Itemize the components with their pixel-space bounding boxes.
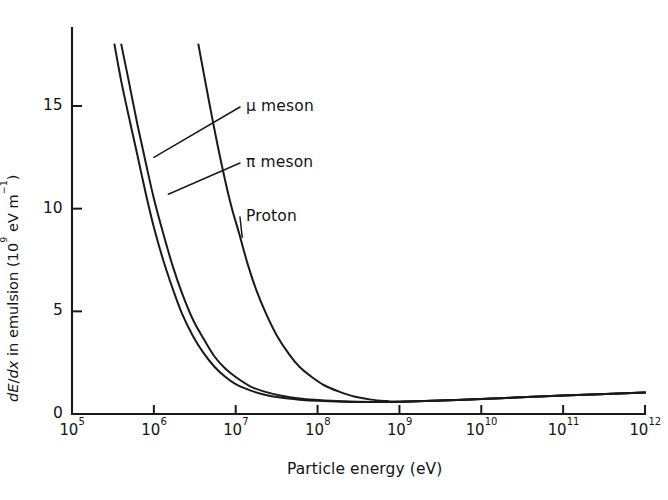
y-tick-label: 10 (43, 199, 63, 217)
y-tick-label: 15 (43, 96, 63, 114)
x-tick-label: 109 (387, 421, 412, 439)
x-tick-label: 1011 (548, 421, 579, 439)
series-label-proton: Proton (246, 207, 297, 225)
figure-canvas: dE/dx in emulsion (109 eV m−1) Particle … (0, 0, 668, 500)
x-tick-label: 108 (305, 421, 330, 439)
axes (72, 28, 645, 414)
y-axis-title: dE/dx in emulsion (109 eV m−1) (5, 174, 21, 402)
annotation-leader-lines (154, 107, 242, 237)
data-curves (114, 44, 645, 402)
y-tick-label: 5 (53, 301, 63, 319)
x-tick-label: 1012 (630, 421, 661, 439)
y-tick-label: 0 (53, 404, 63, 422)
x-axis-title: Particle energy (eV) (287, 460, 442, 478)
leader-line-μ-meson (154, 107, 240, 157)
series-label-π-meson: π meson (246, 153, 313, 171)
leader-line-π-meson (168, 163, 240, 194)
y-axis-ticks (72, 106, 82, 311)
x-tick-label: 1010 (466, 421, 497, 439)
x-tick-label: 106 (141, 421, 166, 439)
curve-μ-meson (114, 44, 645, 402)
series-label-μ-meson: μ meson (246, 97, 314, 115)
x-tick-label: 107 (223, 421, 248, 439)
x-axis-ticks (154, 405, 645, 414)
x-tick-label: 105 (60, 421, 85, 439)
